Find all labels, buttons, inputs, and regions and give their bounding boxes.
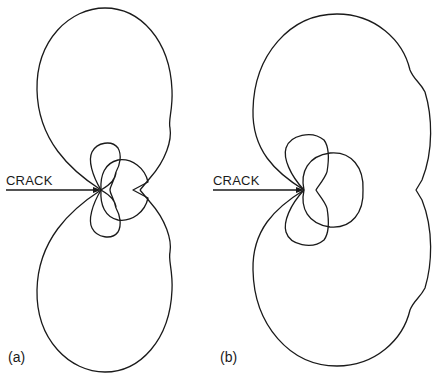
outer-upper-lobe-a — [37, 8, 172, 190]
crack-label-b: CRACK — [213, 173, 260, 188]
inner-lower-petal-a — [90, 190, 120, 237]
inner-circle-lobe-b — [303, 153, 363, 227]
crack-label-a: CRACK — [6, 173, 53, 188]
panel-label-b: (b) — [220, 349, 237, 365]
inner-notch-a — [101, 172, 116, 208]
crack-tip-plastic-zone-diagram — [0, 0, 438, 378]
inner-notch-b — [316, 172, 327, 208]
inner-upper-petal-a — [90, 143, 120, 190]
panel-a-diagram — [6, 8, 172, 372]
inner-circle-lobe-a — [101, 160, 148, 221]
panel-label-a: (a) — [8, 349, 25, 365]
outer-lower-lobe-a — [37, 190, 172, 372]
panel-b-diagram — [213, 14, 431, 366]
